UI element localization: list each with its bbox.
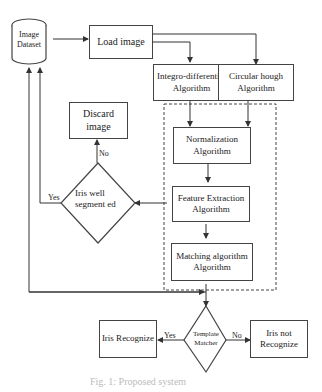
no-label-segmentation: No — [99, 149, 109, 158]
image-dataset-label: Image Dataset — [12, 30, 46, 50]
normalization-box: Normalization Algorithm — [173, 127, 251, 164]
iris-not-recognize-box: Iris not Recognize — [250, 320, 308, 358]
discard-image-box: Discard image — [69, 102, 128, 139]
yes-label-segmentation: Yes — [48, 193, 60, 202]
feature-extraction-box: Feature Extraction Algorithm — [172, 186, 250, 222]
yes-label-template: Yes — [164, 331, 176, 340]
figure-caption: Fig. 1: Proposed system — [90, 376, 186, 387]
no-label-template: No — [232, 331, 242, 340]
iris-segmented-label: Iris well segment ed — [75, 188, 121, 211]
circular-hough-box: Circular hough Algorithm — [218, 64, 294, 101]
matching-algorithm-box: Matching algorithm Algorithm — [171, 243, 253, 281]
template-matcher-label: Template Matcher — [188, 330, 224, 348]
iris-recognize-box: Iris Recognize — [99, 320, 157, 358]
load-image-box: Load image — [89, 25, 153, 59]
